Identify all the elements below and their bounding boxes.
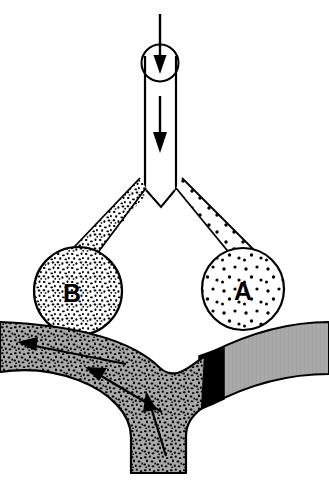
bifurcation-diagram: B A [0, 0, 329, 486]
figure-container: B A [0, 0, 329, 486]
chamber-a-label: A [234, 277, 252, 305]
chamber-b: B [34, 247, 122, 335]
chamber-a: A [202, 248, 284, 330]
chamber-b-label: B [63, 279, 81, 307]
